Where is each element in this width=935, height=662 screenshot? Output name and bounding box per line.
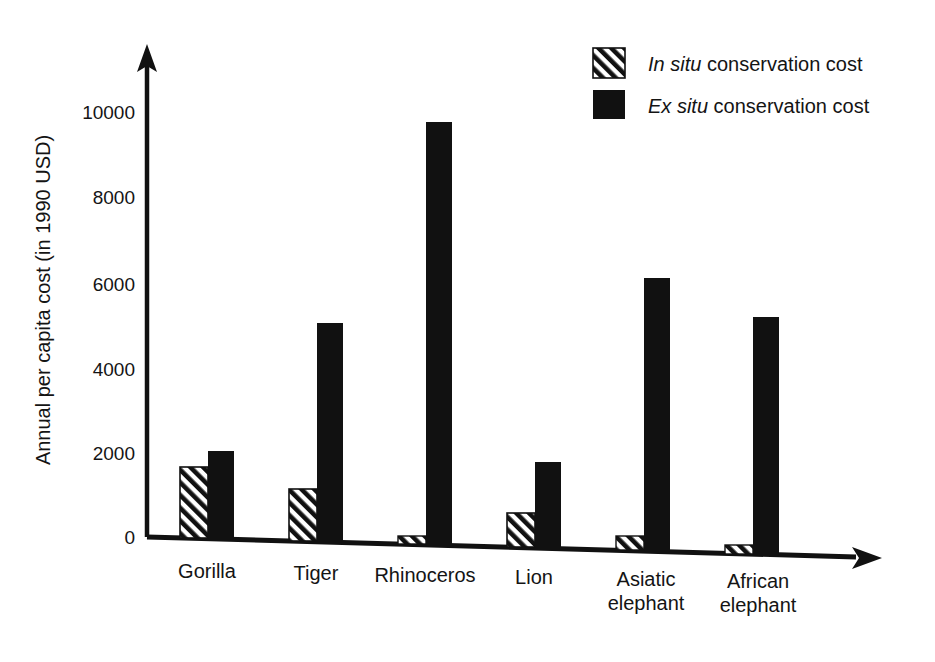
- legend: In situ conservation cost Ex situ conser…: [593, 48, 870, 119]
- category-label-african-elephant-line1: African: [727, 570, 789, 592]
- solid-swatch-icon: [593, 90, 625, 119]
- y-axis-title: Annual per capita cost (in 1990 USD): [32, 135, 54, 465]
- bar-ex-situ: [753, 317, 779, 554]
- x-category-labels: Gorilla Tiger Rhinoceros Lion Asiatic el…: [178, 560, 797, 616]
- bar-group-gorilla: [180, 451, 234, 538]
- legend-label-ex-situ-rest: conservation cost: [708, 95, 870, 117]
- bar-in-situ: [725, 545, 753, 554]
- bar-ex-situ: [644, 278, 670, 550]
- category-label-gorilla: Gorilla: [178, 560, 237, 582]
- bar-group-asiatic-elephant: [616, 278, 670, 550]
- bar-group-african-elephant: [725, 317, 779, 554]
- y-tick-label: 2000: [93, 443, 135, 464]
- bar-chart: 10000 8000 6000 4000 2000 0 Annual per c…: [0, 0, 935, 662]
- bar-group-lion: [507, 462, 561, 547]
- legend-label-in-situ: In situ conservation cost: [648, 53, 863, 75]
- category-label-african-elephant-line2: elephant: [720, 594, 797, 616]
- legend-label-in-situ-rest: conservation cost: [701, 53, 863, 75]
- legend-label-in-situ-italic: In situ: [648, 53, 701, 75]
- legend-item-ex-situ[interactable]: Ex situ conservation cost: [593, 90, 870, 119]
- bar-ex-situ: [535, 462, 561, 547]
- bar-in-situ: [289, 489, 317, 541]
- category-label-asiatic-elephant-line1: Asiatic: [617, 568, 676, 590]
- bar-in-situ: [507, 513, 535, 547]
- y-tick-label: 6000: [93, 274, 135, 295]
- bar-ex-situ: [208, 451, 234, 538]
- x-axis-arrowhead: [852, 547, 882, 569]
- y-tick-label: 0: [124, 527, 135, 548]
- bar-group-rhinoceros: [398, 122, 452, 544]
- bar-ex-situ: [426, 122, 452, 544]
- y-tick-labels: 10000 8000 6000 4000 2000 0: [82, 102, 135, 548]
- bar-ex-situ: [317, 323, 343, 541]
- legend-label-ex-situ-italic: Ex situ: [648, 95, 708, 117]
- y-tick-label: 8000: [93, 187, 135, 208]
- category-label-asiatic-elephant-line2: elephant: [608, 592, 685, 614]
- category-label-rhinoceros: Rhinoceros: [374, 564, 475, 586]
- bar-in-situ: [616, 536, 644, 550]
- y-tick-label: 10000: [82, 102, 135, 123]
- category-label-lion: Lion: [515, 566, 553, 588]
- bar-in-situ: [180, 467, 208, 538]
- legend-item-in-situ[interactable]: In situ conservation cost: [593, 48, 863, 78]
- category-label-tiger: Tiger: [294, 562, 339, 584]
- bar-group-tiger: [289, 323, 343, 541]
- chart-page: 10000 8000 6000 4000 2000 0 Annual per c…: [0, 0, 935, 662]
- bar-in-situ: [398, 536, 426, 544]
- y-axis: [137, 44, 157, 537]
- hatch-swatch-icon: [593, 48, 625, 78]
- y-tick-label: 4000: [93, 359, 135, 380]
- legend-label-ex-situ: Ex situ conservation cost: [648, 95, 870, 117]
